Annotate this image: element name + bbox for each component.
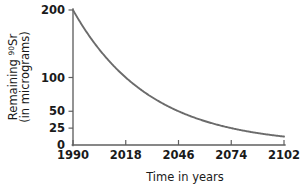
y-tick-label-50: 50 xyxy=(49,104,65,118)
y-tick-label-100: 100 xyxy=(41,71,65,85)
x-tick-label-2074: 2074 xyxy=(215,148,247,162)
y-tick-label-25: 25 xyxy=(49,121,65,135)
y-tick-label-200: 200 xyxy=(41,3,65,17)
x-axis-tick-labels: 19902018204620742102 xyxy=(57,148,300,162)
x-axis-ticks xyxy=(73,140,284,145)
y-axis-tick-labels: 02550100200 xyxy=(41,3,65,152)
x-tick-label-2018: 2018 xyxy=(110,148,142,162)
decay-chart-figure: 02550100200 19902018204620742102 Time in… xyxy=(0,0,305,189)
x-axis-title: Time in years xyxy=(145,170,224,184)
decay-curve xyxy=(73,10,284,137)
x-tick-label-2046: 2046 xyxy=(162,148,194,162)
y-axis-title-line2: (in micrograms) xyxy=(18,31,32,123)
chart-canvas: 02550100200 19902018204620742102 Time in… xyxy=(0,0,305,189)
y-axis-title-group: Remaining 90Sr (in micrograms) xyxy=(6,31,32,123)
x-tick-label-1990: 1990 xyxy=(57,148,89,162)
x-tick-label-2102: 2102 xyxy=(268,148,300,162)
